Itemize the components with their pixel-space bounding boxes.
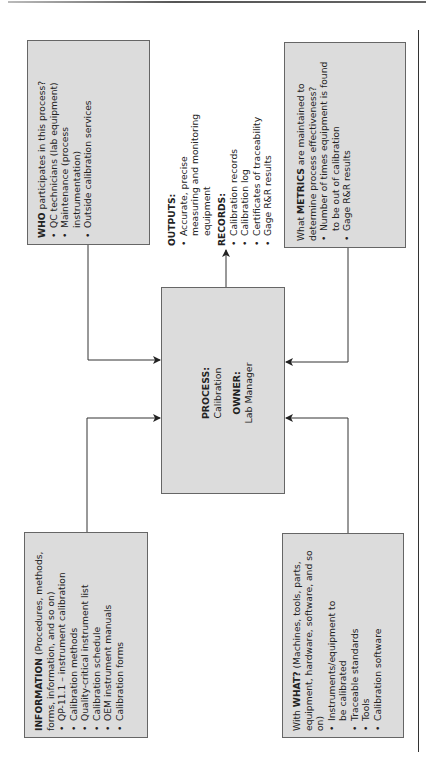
who-item: QC technicians (lab equipment) [48,48,60,238]
who-header-bold: WHO [36,212,47,238]
process-value: Calibration [212,338,224,448]
outputs-label: OUTPUTS: [166,194,177,246]
what-box: With WHAT? (Machines, tools, parts, equi… [282,533,404,738]
who-list: QC technicians (lab equipment) Maintenan… [48,48,94,238]
information-header-bold: INFORMATION [33,658,44,731]
outputs-list: Accurate, precise measuring and monitori… [178,46,213,246]
metrics-list: Number of times equipment is found to be… [318,51,353,241]
information-item: Calibration forms [114,539,126,731]
information-box: INFORMATION (Procedures, methods, forms,… [24,532,148,738]
information-list: QP-11.1 – instrument calibration Calibra… [56,539,125,731]
metrics-connector [286,248,348,362]
what-item: Traceable standards [349,541,361,731]
metrics-item: Gage R&R results [341,51,353,241]
outputs-item: Accurate, precise measuring and monitori… [178,106,213,246]
metrics-header-bold: METRICS [295,168,306,214]
information-item: OEM instrument manuals [102,539,114,731]
what-item: Tools [360,541,372,731]
who-item: Maintenance (process instrumentation) [59,108,82,238]
information-item: QP-11.1 – instrument calibration [56,539,68,731]
owner-value: Lab Manager [243,338,255,448]
metrics-item: Number of times equipment is found to be… [318,51,341,241]
outputs-block: OUTPUTS: Accurate, precise measuring and… [166,46,274,246]
who-connector [88,245,160,360]
records-item: Certificates of traceability [251,46,263,246]
records-item: Calibration log [239,46,251,246]
what-header-pre: With [291,707,302,731]
records-item: Calibration records [228,46,240,246]
who-item: Outside calibration services [82,48,94,238]
metrics-box: What METRICS are maintained to determine… [284,42,406,248]
what-connector [286,418,348,533]
information-item: Quality-critical instrument list [79,539,91,731]
records-list: Calibration records Calibration log Cert… [228,46,274,246]
metrics-header-pre: What [295,214,306,241]
what-item: Instruments/equipment to be calibrated [326,591,349,731]
what-item: Calibration software [372,541,384,731]
records-item: Gage R&R results [262,46,274,246]
what-header-bold: WHAT? [291,671,302,707]
information-item: Calibration methods [68,539,80,731]
records-label: RECORDS: [216,193,227,246]
process-label: PROCESS: [200,367,211,419]
who-header-text: participates in this process? [36,81,47,213]
what-list: Instruments/equipment to be calibrated T… [326,541,384,731]
process-box: PROCESS: Calibration OWNER: Lab Manager [161,287,285,494]
owner-label: OWNER: [231,371,242,415]
information-item: Calibration schedule [91,539,103,731]
information-connector [87,418,160,532]
who-box: WHO participates in this process? QC tec… [27,40,150,245]
